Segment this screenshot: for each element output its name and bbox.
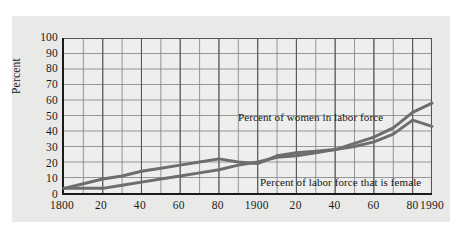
annotation-women-in-labor-force: Percent of women in labor force: [238, 111, 383, 123]
y-axis-tick-labels: 1009080706050403020100: [24, 16, 58, 222]
x-tick-label: 1900: [245, 200, 269, 212]
y-axis-title: Percent: [10, 58, 22, 94]
y-tick-label: 50: [28, 111, 58, 123]
y-tick-label: 60: [28, 95, 58, 107]
chart-figure: Percent 1009080706050403020100 180020406…: [12, 16, 450, 222]
x-tick-label: 60: [368, 200, 380, 212]
x-tick-label: 1990: [420, 200, 444, 212]
y-tick-label: 10: [28, 173, 58, 185]
x-tick-label: 40: [134, 200, 146, 212]
y-tick-label: 80: [28, 63, 58, 75]
y-tick-label: 70: [28, 79, 58, 91]
x-tick-label: 80: [212, 200, 224, 212]
x-tick-label: 80: [406, 200, 418, 212]
x-tick-label: 20: [95, 200, 107, 212]
y-tick-label: 30: [28, 142, 58, 154]
y-tick-label: 100: [28, 32, 58, 44]
x-tick-label: 40: [329, 200, 341, 212]
y-tick-label: 40: [28, 126, 58, 138]
x-axis-tick-labels: 1800204060801900204060801990: [62, 200, 432, 220]
y-tick-label: 20: [28, 158, 58, 170]
x-tick-label: 20: [290, 200, 302, 212]
y-tick-label: 90: [28, 48, 58, 60]
x-tick-label: 1800: [50, 200, 74, 212]
annotation-labor-force-female: Percent of labor force that is female: [260, 176, 421, 188]
x-tick-label: 60: [173, 200, 185, 212]
